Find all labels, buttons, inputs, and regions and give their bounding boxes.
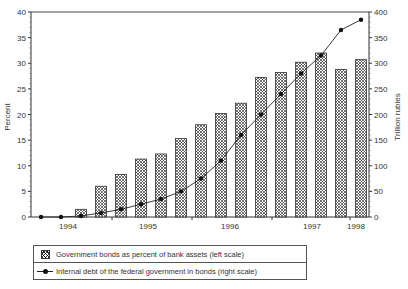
- left-tick-label: 15: [17, 136, 26, 145]
- legend-item-line: Internal debt of the federal government …: [34, 262, 306, 279]
- line-marker-icon: [37, 267, 53, 275]
- right-axis-title: Trillion rubles: [393, 93, 402, 140]
- right-tick-label: 400: [374, 8, 388, 17]
- line-marker: [359, 17, 363, 21]
- bar-series: [76, 53, 367, 217]
- x-tick-label: 1997: [303, 222, 321, 231]
- bar: [316, 53, 327, 217]
- line-marker: [119, 207, 123, 211]
- left-tick-label: 10: [17, 162, 26, 171]
- bar: [176, 139, 187, 217]
- bar: [296, 62, 307, 217]
- right-tick-label: 200: [374, 111, 388, 120]
- legend: Government bonds as percent of bank asse…: [33, 245, 307, 280]
- line-marker: [239, 133, 243, 137]
- line-marker: [99, 211, 103, 215]
- legend-label-line: Internal debt of the federal government …: [56, 267, 257, 276]
- x-tick-label: 1994: [59, 222, 77, 231]
- line-marker: [139, 202, 143, 206]
- bar: [136, 159, 147, 217]
- line-marker: [39, 215, 43, 219]
- line-marker: [219, 158, 223, 162]
- line-marker: [59, 215, 63, 219]
- bar: [256, 78, 267, 217]
- legend-label-bars: Government bonds as percent of bank asse…: [56, 250, 244, 259]
- bar: [156, 154, 167, 217]
- right-tick-label: 250: [374, 85, 388, 94]
- hatched-bar-swatch-icon: [41, 250, 50, 259]
- line-marker: [179, 189, 183, 193]
- line-marker: [259, 112, 263, 116]
- bar: [236, 103, 247, 217]
- right-tick-label: 100: [374, 162, 388, 171]
- line-marker: [159, 197, 163, 201]
- left-tick-label: 35: [17, 34, 26, 43]
- left-tick-label: 40: [17, 8, 26, 17]
- x-axis: 19941995199619971998: [31, 217, 369, 231]
- chart: 0510152025303540 05010015020025030035040…: [0, 0, 408, 245]
- right-tick-label: 300: [374, 59, 388, 68]
- left-tick-label: 5: [22, 187, 27, 196]
- right-axis: 050100150200250300350400: [369, 8, 388, 222]
- line-marker: [319, 53, 323, 57]
- line-marker: [279, 92, 283, 96]
- legend-item-bars: Government bonds as percent of bank asse…: [34, 246, 306, 262]
- left-tick-label: 0: [22, 213, 27, 222]
- bar: [216, 113, 227, 217]
- line-marker: [299, 71, 303, 75]
- left-axis-title: Percent: [3, 102, 12, 130]
- bar: [336, 69, 347, 217]
- x-tick-label: 1996: [221, 222, 239, 231]
- right-tick-label: 150: [374, 136, 388, 145]
- right-tick-label: 0: [374, 213, 379, 222]
- left-tick-label: 20: [17, 111, 26, 120]
- left-tick-label: 25: [17, 85, 26, 94]
- left-tick-label: 30: [17, 59, 26, 68]
- line-marker: [199, 176, 203, 180]
- right-tick-label: 50: [374, 187, 383, 196]
- x-tick-label: 1995: [139, 222, 157, 231]
- left-axis: 0510152025303540: [17, 8, 31, 222]
- right-tick-label: 350: [374, 34, 388, 43]
- line-marker: [339, 28, 343, 32]
- line-marker: [79, 214, 83, 218]
- bar: [196, 125, 207, 217]
- x-tick-label: 1998: [347, 222, 365, 231]
- bar: [356, 60, 367, 217]
